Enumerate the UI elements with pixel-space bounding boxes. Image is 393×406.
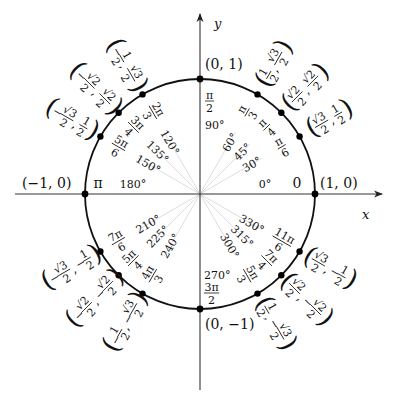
coordinate-label-30: (√32,12) [300, 92, 359, 144]
fraction-denominator: 2 [311, 79, 325, 93]
fraction-denominator: 2 [304, 307, 318, 321]
fraction-denominator: 2 [206, 102, 213, 115]
coordinate-label-180: (−1, 0) [22, 175, 71, 191]
point-45 [278, 109, 284, 115]
point-90 [197, 76, 204, 83]
radian-label-60: π3 [234, 102, 261, 123]
radian-label-270: 3π2 [204, 281, 219, 307]
coordinate-label-90: (0, 1) [205, 56, 243, 72]
fraction-denominator: 6 [109, 146, 122, 161]
fraction-denominator: 2 [277, 56, 292, 69]
fraction-numerator: 3π [204, 281, 218, 294]
fraction-denominator: 2 [93, 97, 107, 111]
coordinate-label-150: (−√32,12) [40, 91, 105, 146]
fraction-denominator: 2 [267, 330, 282, 343]
point-180 [82, 191, 89, 198]
fraction-denominator: 2 [77, 81, 91, 95]
radian-label-240: 4π3 [138, 263, 168, 289]
degree-label-180: 180° [120, 178, 147, 191]
fraction-denominator: 3 [234, 273, 249, 286]
radian-label-90: π2 [205, 89, 214, 115]
y-axis-label: y [213, 16, 222, 31]
fraction-denominator: 6 [279, 146, 292, 161]
radian-label-0: 0 [293, 175, 302, 191]
fraction-denominator: 2 [84, 305, 98, 319]
coordinate-label-0: (1, 0) [320, 175, 358, 191]
radian-label-150: 5π6 [105, 132, 131, 162]
point-150 [97, 133, 103, 139]
comma: , [89, 86, 102, 99]
point-60 [254, 91, 260, 97]
unit-circle-diagram: x y 30°π6(√32,12)45°π4(√22,√22)60°π3(12,… [0, 0, 393, 406]
radian-label-180: π [93, 175, 102, 191]
coordinate-label-330: (√32,−12) [298, 240, 363, 295]
degree-label-90: 90° [205, 119, 225, 132]
x-axis-label: x [362, 207, 370, 222]
fraction-denominator: 2 [61, 271, 74, 286]
point-270 [197, 306, 204, 313]
fraction-denominator: 2 [208, 294, 215, 307]
point-120 [139, 91, 145, 97]
comma: , [300, 85, 313, 98]
point-30 [296, 133, 302, 139]
fraction-numerator: π [206, 89, 213, 102]
coordinate-label-210: (−√32,−12) [35, 237, 107, 296]
point-330 [296, 248, 302, 254]
degree-label-270: 270° [204, 269, 231, 282]
point-300 [254, 290, 260, 296]
coordinate-label-270: (0, −1) [205, 316, 254, 332]
fraction-denominator: 2 [118, 72, 133, 85]
point-0 [312, 191, 319, 198]
fraction-denominator: 3 [152, 273, 167, 286]
degree-label-0: 0° [259, 178, 272, 191]
